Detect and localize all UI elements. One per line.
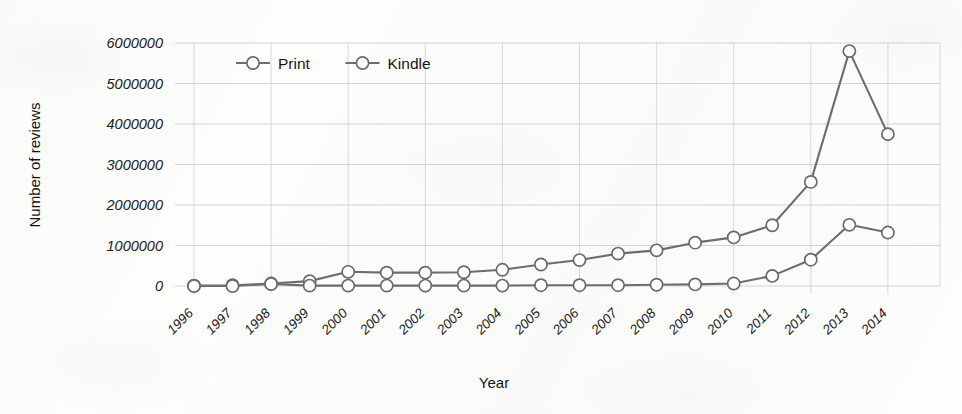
x-axis-tick-labels: 1996199719981999200020012002200320042005…: [164, 305, 890, 338]
data-point-marker: [612, 248, 624, 260]
horizontal-gridlines: [175, 43, 940, 286]
x-tick-label: 1996: [164, 305, 196, 337]
vertical-gridlines: [194, 43, 940, 294]
data-point-marker: [304, 279, 316, 291]
y-tick-label: 2000000: [106, 197, 163, 213]
data-point-marker: [226, 280, 238, 292]
data-point-marker: [535, 279, 547, 291]
x-tick-label: 1999: [280, 305, 312, 337]
y-tick-label: 1000000: [107, 238, 163, 254]
data-point-marker: [419, 267, 431, 279]
y-tick-label: 4000000: [107, 116, 163, 132]
data-point-marker: [496, 279, 508, 291]
series-print: [188, 45, 894, 292]
data-point-marker: [265, 278, 277, 290]
y-tick-label: 6000000: [107, 35, 163, 51]
data-point-marker: [496, 264, 508, 276]
legend-entry-print[interactable]: Print: [236, 55, 311, 72]
y-axis-title: Number of reviews: [26, 102, 43, 227]
data-point-marker: [805, 254, 817, 266]
x-tick-label: 2014: [857, 306, 890, 339]
legend-label: Print: [278, 55, 311, 72]
y-axis-tick-labels: 0100000020000003000000400000050000006000…: [106, 35, 163, 294]
line-chart-canvas: 0100000020000003000000400000050000006000…: [0, 0, 962, 414]
data-series-group: [188, 45, 894, 292]
x-tick-label: 2007: [588, 305, 621, 338]
x-tick-label: 1998: [241, 305, 273, 337]
data-point-marker: [689, 237, 701, 249]
x-tick-label: 2004: [472, 306, 505, 339]
data-point-marker: [882, 128, 894, 140]
chart-legend: PrintKindle: [236, 55, 431, 72]
data-point-marker: [651, 244, 663, 256]
x-tick-label: 1997: [203, 305, 235, 337]
x-tick-label: 2000: [318, 305, 351, 338]
data-point-marker: [728, 277, 740, 289]
x-tick-label: 2002: [395, 305, 428, 338]
x-tick-label: 2003: [433, 305, 466, 338]
x-tick-label: 2011: [743, 306, 775, 338]
data-point-marker: [573, 279, 585, 291]
x-tick-label: 2005: [511, 305, 544, 338]
data-point-marker: [381, 267, 393, 279]
data-point-marker: [651, 279, 663, 291]
data-point-marker: [458, 279, 470, 291]
data-point-marker: [612, 279, 624, 291]
data-point-marker: [689, 278, 701, 290]
data-point-marker: [843, 219, 855, 231]
data-point-marker: [805, 176, 817, 188]
data-point-marker: [188, 280, 200, 292]
x-axis-title: Year: [479, 374, 509, 391]
data-point-marker: [381, 279, 393, 291]
y-tick-label: 3000000: [107, 157, 163, 173]
x-tick-label: 2008: [626, 305, 659, 338]
data-point-marker: [535, 258, 547, 270]
series-line-print: [194, 51, 888, 285]
data-point-marker: [843, 45, 855, 57]
data-point-marker: [766, 219, 778, 231]
data-point-marker: [342, 279, 354, 291]
data-point-marker: [573, 254, 585, 266]
x-tick-label: 2006: [549, 305, 582, 338]
legend-marker-open-circle: [247, 57, 259, 69]
data-point-marker: [419, 279, 431, 291]
data-point-marker: [342, 266, 354, 278]
data-point-marker: [766, 270, 778, 282]
data-point-marker: [882, 226, 894, 238]
legend-entry-kindle[interactable]: Kindle: [346, 55, 431, 72]
x-tick-label: 2010: [703, 305, 736, 338]
y-tick-label: 5000000: [107, 76, 163, 92]
x-tick-label: 2012: [780, 305, 813, 338]
data-point-marker: [458, 266, 470, 278]
data-point-marker: [728, 231, 740, 243]
legend-marker-open-circle: [356, 57, 368, 69]
x-tick-label: 2001: [356, 306, 389, 339]
x-tick-label: 2013: [819, 305, 852, 338]
x-tick-label: 2009: [665, 305, 698, 338]
series-line-kindle: [194, 225, 888, 286]
chart-figure: 0100000020000003000000400000050000006000…: [0, 0, 962, 414]
y-tick-label: 0: [155, 278, 163, 294]
legend-label: Kindle: [388, 55, 431, 72]
